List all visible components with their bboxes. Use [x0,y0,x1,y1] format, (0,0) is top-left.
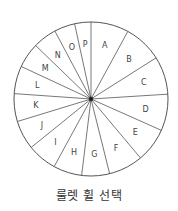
segment-divider [14,94,91,99]
segment-label-h: H [71,148,77,157]
segment-label-l: L [35,81,40,90]
segment-label-n: N [55,51,61,60]
segment-label-g: G [91,150,97,159]
wheel-hub [89,97,93,101]
segment-label-d: D [142,105,148,114]
segment-divider [75,24,91,99]
segment-label-p: P [83,40,88,49]
segment-divider [91,31,128,99]
segment-label-a: A [102,41,108,50]
segment-label-c: C [141,78,147,87]
segment-label-b: B [126,55,132,64]
segment-label-o: O [69,43,75,52]
segment-label-j: J [40,121,43,130]
roulette-wheel: ABCDEFGHIJKLMNOP [0,0,178,211]
segment-label-i: I [54,138,56,147]
segment-divider [91,99,161,130]
segment-label-e: E [133,128,138,137]
segment-label-k: K [33,101,39,110]
segment-divider [17,99,91,122]
segment-label-f: F [114,144,119,153]
segment-divider [21,66,91,99]
diagram-caption: 룰렛 휠 선택 [0,186,178,203]
segment-divider [91,94,168,99]
segment-label-m: M [42,64,49,73]
segment-divider [82,99,91,175]
